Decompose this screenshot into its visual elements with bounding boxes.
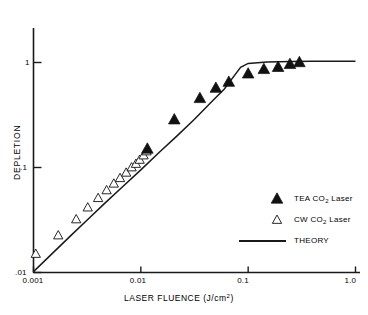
x-tick-label: 1.0 xyxy=(345,276,357,285)
cw-co2-marker xyxy=(93,193,102,201)
tea-co2-data-markers xyxy=(142,56,306,153)
x-tick-label: 0.001 xyxy=(23,276,44,285)
legend-item-label: CW CO2 Laser xyxy=(294,215,351,224)
legend-label-subscript: 2 xyxy=(325,198,329,204)
cw-co2-data-markers xyxy=(31,147,151,258)
x-tick-label: 0.01 xyxy=(130,276,146,285)
legend-item-label: THEORY xyxy=(294,236,329,245)
legend-marker-filled-triangle xyxy=(271,193,283,203)
tea-co2-marker xyxy=(258,63,270,73)
y-axis-title: DEPLETION xyxy=(12,125,22,180)
cw-co2-marker xyxy=(83,203,92,211)
y-axis-ticks xyxy=(34,63,42,273)
cw-co2-marker xyxy=(54,231,63,239)
legend-markers xyxy=(239,193,286,241)
legend-item-label: TEA CO2 Laser xyxy=(294,194,353,203)
x-axis-ticks xyxy=(34,267,356,273)
plot-canvas xyxy=(0,0,368,315)
legend-label-subscript: 2 xyxy=(323,219,327,225)
tea-co2-marker xyxy=(168,114,180,124)
figure-depletion-vs-laser-fluence: 0.0010.010.11.0 1.1.01 LASER FLUENCE (J/… xyxy=(0,0,368,315)
x-tick-label: 0.1 xyxy=(237,276,249,285)
x-axis-unit-superscript: 2 xyxy=(227,293,231,299)
tea-co2-marker xyxy=(210,82,222,92)
cw-co2-marker xyxy=(72,214,81,222)
y-tick-label: 1 xyxy=(25,58,30,67)
tea-co2-marker xyxy=(194,92,206,102)
legend-marker-open-triangle xyxy=(272,215,281,223)
x-axis-title: LASER FLUENCE (J/cm2) xyxy=(124,293,234,303)
tea-co2-marker xyxy=(242,68,254,78)
cw-co2-marker xyxy=(31,249,40,257)
y-tick-label: .01 xyxy=(15,268,27,277)
tea-co2-marker xyxy=(142,143,154,153)
